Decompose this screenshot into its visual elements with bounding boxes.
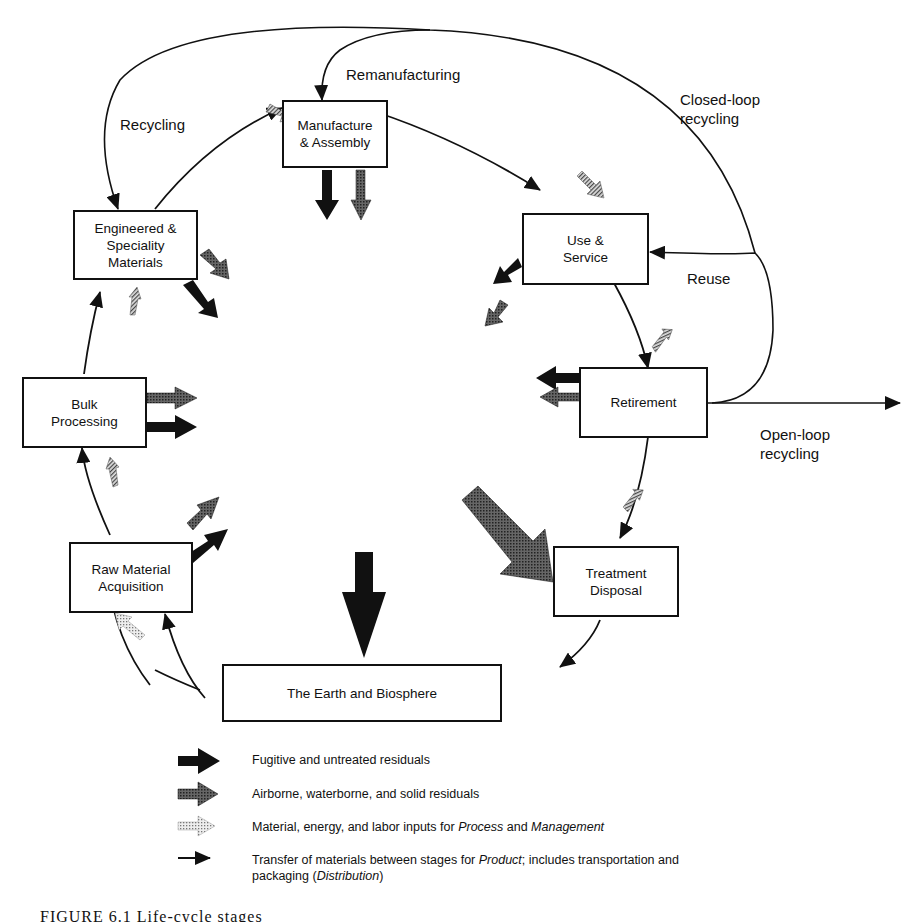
node-retirement[interactable]: Retirement	[579, 367, 708, 438]
node-label: Processing	[51, 413, 118, 430]
node-label: Treatment	[585, 565, 646, 582]
node-label: Service	[563, 249, 608, 266]
node-label: Engineered &	[95, 220, 177, 237]
legend-inputs-text: Material, energy, and labor inputs for P…	[252, 819, 604, 835]
legend-inputs-icon	[178, 816, 215, 836]
airborne-residual-arrows	[147, 170, 580, 582]
legend-transfer-text: Transfer of materials between stages for…	[252, 852, 679, 884]
node-label: The Earth and Biosphere	[287, 685, 437, 702]
label-reuse: Reuse	[687, 269, 730, 288]
node-label: Retirement	[610, 394, 676, 411]
node-label: Bulk	[71, 396, 97, 413]
label-recycling: Recycling	[120, 115, 185, 134]
node-label: Use &	[567, 232, 604, 249]
label-remanufacturing: Remanufacturing	[346, 65, 460, 84]
node-label: Speciality	[107, 237, 165, 254]
legend-airborne-icon	[178, 782, 218, 806]
node-treatment-disposal[interactable]: Treatment Disposal	[553, 546, 679, 617]
label-closed-loop-recycling: Closed-loop recycling	[680, 90, 760, 128]
label-open-loop-recycling: Open-loop recycling	[760, 425, 830, 463]
legend-airborne-text: Airborne, waterborne, and solid residual…	[252, 786, 479, 802]
feedback-loops	[104, 27, 900, 403]
input-arrows-light	[115, 613, 145, 640]
node-label: Acquisition	[98, 578, 163, 595]
node-bulk-processing[interactable]: Bulk Processing	[22, 377, 147, 448]
node-label: Manufacture	[297, 117, 372, 134]
node-label: Raw Material	[92, 561, 171, 578]
legend-glyphs	[178, 748, 220, 858]
node-label: Materials	[108, 254, 163, 271]
node-raw-material-acquisition[interactable]: Raw Material Acquisition	[69, 542, 193, 613]
node-engineered-materials[interactable]: Engineered & Speciality Materials	[73, 210, 198, 280]
node-earth-biosphere[interactable]: The Earth and Biosphere	[222, 664, 502, 722]
legend-fugitive-icon	[178, 748, 220, 774]
legend-fugitive-text: Fugitive and untreated residuals	[252, 752, 430, 768]
node-manufacture-assembly[interactable]: Manufacture & Assembly	[282, 100, 388, 168]
fugitive-residual-arrows	[147, 170, 580, 658]
node-use-service[interactable]: Use & Service	[522, 213, 649, 285]
input-arrows	[106, 104, 672, 514]
node-label: Disposal	[590, 582, 642, 599]
figure-caption: FIGURE 6.1 Life-cycle stages	[40, 908, 263, 922]
node-label: & Assembly	[300, 134, 371, 151]
